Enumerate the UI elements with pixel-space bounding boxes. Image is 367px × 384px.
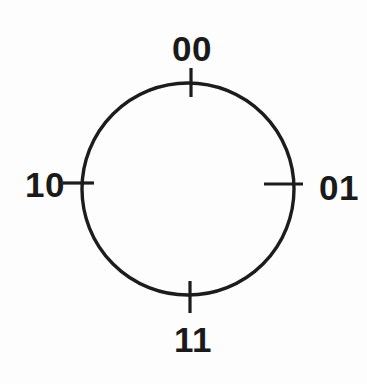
- label-bottom-11: 11: [174, 322, 212, 357]
- label-right-01: 01: [319, 170, 359, 205]
- label-left-10: 10: [25, 167, 65, 202]
- label-top-00: 00: [172, 31, 212, 66]
- state-circle-figure: 00 01 11 10: [0, 0, 367, 384]
- state-circle: [82, 83, 294, 295]
